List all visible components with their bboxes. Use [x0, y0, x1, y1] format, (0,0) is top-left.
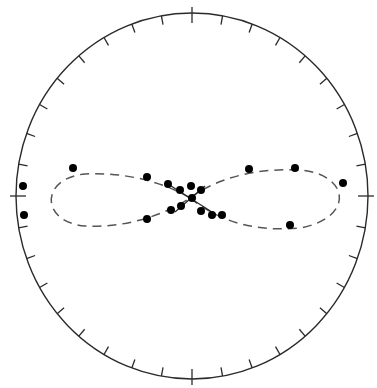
tick-mark: [276, 38, 281, 46]
tick-mark: [27, 256, 35, 259]
data-point: [245, 165, 253, 173]
data-point: [291, 164, 299, 172]
tick-mark: [19, 164, 28, 166]
tick-mark: [104, 38, 109, 46]
tick-mark: [299, 329, 305, 336]
tick-mark: [276, 347, 281, 355]
data-point: [188, 194, 196, 202]
data-point: [167, 206, 175, 214]
tick-mark: [356, 164, 365, 166]
data-point: [143, 215, 151, 223]
tick-mark: [356, 226, 365, 228]
tick-mark: [104, 347, 109, 355]
data-point: [208, 211, 216, 219]
data-point: [286, 221, 294, 229]
tick-mark: [79, 56, 85, 63]
tick-mark: [79, 329, 85, 336]
data-point: [20, 211, 28, 219]
stereonet-diagram: [0, 0, 377, 388]
tick-mark: [57, 308, 64, 314]
tick-mark: [349, 256, 357, 259]
tick-mark: [320, 308, 327, 314]
data-points: [19, 164, 347, 229]
tick-mark: [337, 283, 345, 288]
stereonet-plot: [0, 0, 377, 388]
tick-mark: [249, 24, 252, 32]
tick-mark: [40, 105, 48, 110]
right-loop: [190, 170, 339, 229]
data-point: [69, 164, 77, 172]
tick-mark: [27, 133, 35, 136]
data-point: [197, 207, 205, 215]
tick-mark: [221, 367, 223, 376]
data-point: [187, 182, 195, 190]
data-point: [218, 211, 226, 219]
tick-mark: [132, 24, 135, 32]
data-point: [339, 179, 347, 187]
tick-mark: [161, 367, 163, 376]
data-point: [164, 180, 172, 188]
tick-mark: [349, 133, 357, 136]
tick-mark: [320, 78, 327, 84]
tick-mark: [57, 78, 64, 84]
data-point: [143, 173, 151, 181]
data-point: [19, 182, 27, 190]
data-point: [197, 186, 205, 194]
tick-mark: [19, 226, 28, 228]
tick-mark: [249, 360, 252, 368]
data-point: [176, 186, 184, 194]
data-point: [177, 202, 185, 210]
tick-mark: [40, 283, 48, 288]
tick-mark: [161, 16, 163, 25]
tick-mark: [299, 56, 305, 63]
tick-mark: [221, 16, 223, 25]
tick-mark: [132, 360, 135, 368]
tick-mark: [337, 105, 345, 110]
